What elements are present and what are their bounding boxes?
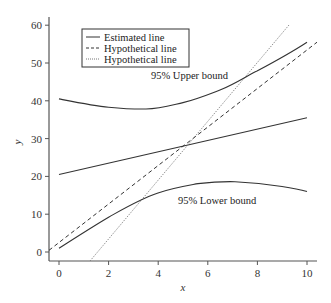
y-axis-label: y: [11, 139, 23, 145]
y-tick-label: 20: [31, 170, 43, 182]
y-tick-label: 10: [31, 208, 43, 220]
lower-bound-annotation: 95% Lower bound: [178, 195, 257, 206]
y-tick-label: 30: [31, 133, 43, 145]
x-tick-label: 4: [155, 267, 161, 279]
upper-bound-annotation: 95% Upper bound: [151, 70, 229, 81]
y-tick-label: 40: [31, 95, 43, 107]
x-axis-label: x: [180, 281, 186, 293]
x-tick-label: 10: [302, 267, 314, 279]
lower-bound-curve: [59, 182, 307, 249]
x-tick-label: 2: [106, 267, 112, 279]
y-tick-label: 60: [31, 19, 43, 31]
chart: 0 10 20 30 40 50 60 0 2 4 6 8 10 x y: [0, 0, 331, 303]
y-tick-label: 0: [37, 246, 43, 258]
x-tick-label: 6: [205, 267, 211, 279]
legend: Estimated line Hypothetical line Hypothe…: [82, 29, 189, 67]
legend-label-estimated: Estimated line: [104, 32, 165, 43]
legend-label-hypothetical-dotted: Hypothetical line: [104, 54, 177, 65]
y-ticks: 0 10 20 30 40 50 60: [31, 19, 49, 258]
x-tick-label: 0: [56, 267, 62, 279]
x-tick-label: 8: [255, 267, 261, 279]
y-tick-label: 50: [31, 57, 43, 69]
legend-label-hypothetical-dashed: Hypothetical line: [104, 43, 177, 54]
x-ticks: 0 2 4 6 8 10: [56, 261, 313, 279]
